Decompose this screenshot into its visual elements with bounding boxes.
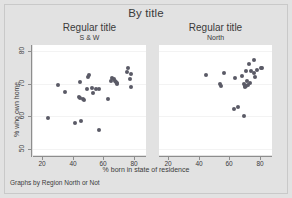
panel-subtitle-right: North: [159, 34, 272, 41]
data-point: [252, 58, 256, 62]
plot-area-left: [33, 45, 146, 155]
data-point: [106, 97, 110, 101]
data-point: [247, 62, 251, 66]
panel-subtitle-left: S & W: [33, 34, 146, 41]
data-point: [90, 86, 94, 90]
panel-title-left: Regular title: [33, 22, 146, 33]
gridline: [33, 116, 146, 117]
page-title: By title: [0, 7, 292, 19]
data-point: [126, 66, 130, 70]
x-axis-line: [33, 156, 146, 157]
gridline: [33, 51, 146, 52]
data-point: [128, 77, 132, 81]
y-axis-line: [31, 45, 32, 157]
plot-area-right: [159, 45, 272, 155]
data-point: [129, 85, 133, 89]
gridline: [159, 149, 272, 150]
data-point: [78, 80, 82, 84]
y-tick-label: 50: [18, 141, 25, 155]
data-point: [79, 119, 83, 123]
x-axis-title: % born in state of residence: [0, 166, 292, 173]
data-point: [87, 73, 91, 77]
data-point: [244, 69, 248, 73]
figure-caption: Graphs by Region North or Not: [10, 179, 100, 186]
y-axis-title: % who own home: [13, 82, 20, 137]
data-point: [222, 71, 226, 75]
data-point: [219, 84, 223, 88]
data-point: [242, 114, 246, 118]
data-point: [73, 121, 77, 125]
data-point: [63, 90, 67, 94]
data-point: [204, 73, 208, 77]
data-point: [129, 72, 133, 76]
gridline: [33, 149, 146, 150]
gridline: [159, 51, 272, 52]
data-point: [232, 107, 236, 111]
data-point: [97, 87, 101, 91]
gridline: [159, 116, 272, 117]
panel-title-right: Regular title: [159, 22, 272, 33]
y-tick: [28, 116, 31, 117]
data-point: [260, 66, 264, 70]
y-tick-label: 80: [18, 44, 25, 58]
x-axis-line: [159, 156, 272, 157]
data-point: [46, 116, 50, 120]
y-tick: [28, 51, 31, 52]
data-point: [82, 98, 86, 102]
data-point: [85, 87, 89, 91]
data-point: [97, 128, 101, 132]
data-point: [56, 83, 60, 87]
data-point: [240, 74, 244, 78]
gridline: [159, 84, 272, 85]
data-point: [248, 81, 252, 85]
y-tick: [28, 149, 31, 150]
stata-scatter-figure: By title Regular title S & W Regular tit…: [0, 0, 292, 198]
data-point: [253, 75, 257, 79]
data-point: [115, 82, 119, 86]
data-point: [91, 91, 95, 95]
data-point: [236, 105, 240, 109]
y-tick: [28, 84, 31, 85]
data-point: [233, 76, 237, 80]
